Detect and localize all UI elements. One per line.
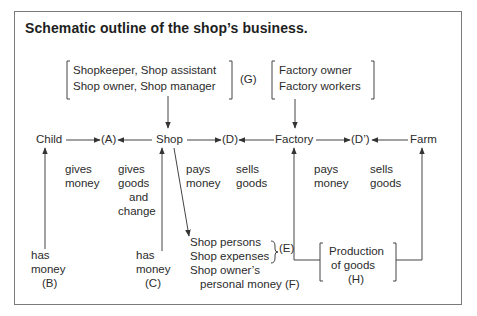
bracket-left-factory-staff (272, 61, 275, 99)
label-e: (E) (279, 242, 294, 256)
node-d-prime: (D’) (351, 133, 370, 147)
label-b-1: has (31, 249, 50, 263)
node-factory: Factory (275, 133, 313, 147)
label-g: (G) (240, 73, 257, 87)
label-farm-sells-2: goods (370, 177, 401, 191)
factory-staff-line1: Factory owner (279, 64, 352, 78)
label-shop-gives-3: and (129, 191, 148, 205)
node-d: (D) (222, 133, 238, 147)
label-factory-pays-1: pays (314, 163, 338, 177)
label-b-2: money (31, 263, 66, 277)
output-shop-expenses: Shop expenses (190, 250, 269, 264)
label-child-gives-2: money (65, 177, 100, 191)
label-factory-pays-2: money (314, 177, 349, 191)
label-shop-pays-2: money (186, 177, 221, 191)
bracket-right-factory-staff (371, 61, 374, 99)
bracket-left-g (67, 61, 70, 99)
label-farm-sells-1: sells (370, 163, 393, 177)
label-b: (B) (42, 277, 57, 291)
label-factory-sells-2: goods (236, 177, 267, 191)
bracket-right-g (229, 61, 232, 99)
production-line1: Production (329, 245, 384, 259)
node-child: Child (36, 133, 62, 147)
bracket-right-h (393, 243, 396, 281)
label-factory-sells-1: sells (236, 163, 259, 177)
arrow-shop-to-outputs (174, 148, 189, 236)
label-c: (C) (145, 277, 161, 291)
output-shop-owner: Shop owner’s (190, 264, 260, 278)
output-shop-persons: Shop persons (190, 236, 261, 250)
shop-staff-line1: Shopkeeper, Shop assistant (73, 64, 216, 78)
brace-e (271, 241, 278, 263)
shop-staff-line2: Shop owner, Shop manager (73, 80, 216, 94)
node-shop: Shop (156, 133, 183, 147)
node-a: (A) (101, 133, 116, 147)
label-shop-gives-4: change (118, 205, 156, 219)
output-personal-money: personal money (F) (200, 278, 300, 292)
label-child-gives-1: gives (65, 163, 92, 177)
label-h: (H) (348, 273, 364, 287)
label-shop-gives-2: goods (118, 177, 149, 191)
production-line2: of goods (331, 259, 375, 273)
label-shop-pays-1: pays (186, 163, 210, 177)
label-c-1: has (136, 249, 155, 263)
factory-staff-line2: Factory workers (279, 80, 361, 94)
label-shop-gives-1: gives (118, 163, 145, 177)
bracket-left-h (320, 243, 323, 281)
node-farm: Farm (410, 133, 437, 147)
label-c-2: money (136, 263, 171, 277)
